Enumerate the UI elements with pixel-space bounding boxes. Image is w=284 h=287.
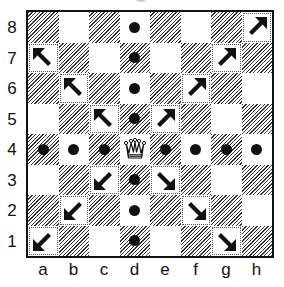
move-dot-icon [221, 144, 232, 155]
rank-label-5: 5 [4, 110, 20, 130]
square-h2 [242, 195, 273, 226]
arrow-sw-icon [92, 168, 116, 192]
file-label-c: c [89, 260, 119, 280]
square-e8 [150, 12, 181, 43]
move-dot-icon [251, 144, 262, 155]
arrow-se-icon [153, 168, 177, 192]
square-c8 [89, 12, 120, 43]
square-d6 [120, 73, 151, 104]
square-g1 [211, 226, 242, 257]
square-e5 [150, 104, 181, 135]
file-label-b: b [59, 260, 89, 280]
square-a6 [28, 73, 59, 104]
square-f6 [181, 73, 212, 104]
square-a5 [28, 104, 59, 135]
square-d3 [120, 165, 151, 196]
move-dot-icon [38, 144, 49, 155]
square-h1 [242, 226, 273, 257]
square-c7 [89, 43, 120, 74]
arrow-nw-icon [62, 76, 86, 100]
square-b7 [59, 43, 90, 74]
square-g4 [211, 134, 242, 165]
square-d8 [120, 12, 151, 43]
move-dot-icon [129, 22, 140, 33]
square-d2 [120, 195, 151, 226]
square-g8 [211, 12, 242, 43]
arrow-ne-icon [153, 107, 177, 131]
square-b2 [59, 195, 90, 226]
square-b4 [59, 134, 90, 165]
file-label-f: f [181, 260, 211, 280]
square-a3 [28, 165, 59, 196]
arrow-sw-icon [62, 198, 86, 222]
square-h3 [242, 165, 273, 196]
move-dot-icon [129, 235, 140, 246]
square-h4 [242, 134, 273, 165]
rank-label-2: 2 [4, 201, 20, 221]
arrow-ne-icon [184, 76, 208, 100]
move-dot-icon [129, 52, 140, 63]
square-e7 [150, 43, 181, 74]
square-f3 [181, 165, 212, 196]
square-b6 [59, 73, 90, 104]
square-f1 [181, 226, 212, 257]
move-dot-icon [129, 83, 140, 94]
move-dot-icon [99, 144, 110, 155]
square-d4 [120, 134, 151, 165]
square-d1 [120, 226, 151, 257]
square-h6 [242, 73, 273, 104]
rank-label-1: 1 [4, 232, 20, 252]
square-e4 [150, 134, 181, 165]
square-h7 [242, 43, 273, 74]
arrow-ne-icon [214, 46, 238, 70]
square-e2 [150, 195, 181, 226]
square-b3 [59, 165, 90, 196]
square-e3 [150, 165, 181, 196]
square-g5 [211, 104, 242, 135]
arrow-nw-icon [31, 46, 55, 70]
square-c2 [89, 195, 120, 226]
file-label-d: d [120, 260, 150, 280]
square-d5 [120, 104, 151, 135]
square-b1 [59, 226, 90, 257]
file-label-g: g [211, 260, 241, 280]
square-a7 [28, 43, 59, 74]
rank-label-8: 8 [4, 18, 20, 38]
square-h8 [242, 12, 273, 43]
scan-artifact [136, 0, 146, 2]
rank-label-3: 3 [4, 171, 20, 191]
move-dot-icon [190, 144, 201, 155]
move-dot-icon [68, 144, 79, 155]
square-c4 [89, 134, 120, 165]
square-h5 [242, 104, 273, 135]
arrow-se-icon [184, 198, 208, 222]
square-f7 [181, 43, 212, 74]
white-queen-icon [123, 137, 147, 161]
rank-label-6: 6 [4, 79, 20, 99]
square-g7 [211, 43, 242, 74]
square-a8 [28, 12, 59, 43]
rank-label-7: 7 [4, 49, 20, 69]
arrow-sw-icon [31, 229, 55, 253]
move-dot-icon [129, 205, 140, 216]
square-f2 [181, 195, 212, 226]
square-c1 [89, 226, 120, 257]
move-dot-icon [160, 144, 171, 155]
square-g3 [211, 165, 242, 196]
square-b5 [59, 104, 90, 135]
square-g2 [211, 195, 242, 226]
square-c3 [89, 165, 120, 196]
square-a1 [28, 226, 59, 257]
square-c5 [89, 104, 120, 135]
move-dot-icon [129, 113, 140, 124]
move-dot-icon [129, 174, 140, 185]
arrow-nw-icon [92, 107, 116, 131]
arrow-ne-icon [245, 15, 269, 39]
square-f8 [181, 12, 212, 43]
file-label-a: a [28, 260, 58, 280]
file-label-e: e [150, 260, 180, 280]
square-b8 [59, 12, 90, 43]
square-a4 [28, 134, 59, 165]
rank-label-4: 4 [4, 140, 20, 160]
arrow-se-icon [214, 229, 238, 253]
